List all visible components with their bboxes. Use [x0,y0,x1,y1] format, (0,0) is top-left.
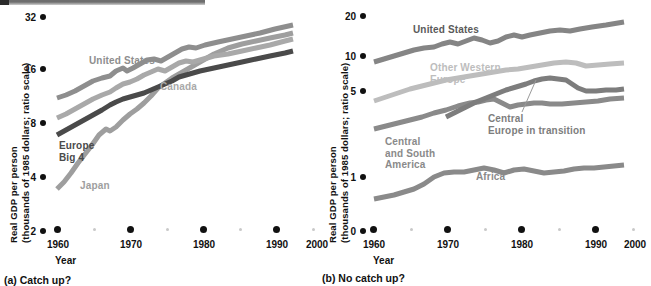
panel-a-x-axis-title: Year [55,255,76,266]
panel-b-xdot-minor-1995b [632,228,635,231]
panel-a-xdot-1960 [54,226,61,233]
panel-b-xdot-1980 [518,226,525,233]
panel-a-series-label-japan: Japan [80,180,110,192]
panel-a-caption: (a) Catch up? [4,274,71,286]
panel-a-xtick-1980: 1980 [184,239,224,250]
panel-a-xdot-minor-1985 [239,228,242,231]
panel-b-xtick-1960: 1960 [354,239,394,250]
panel-b-xdot-1960 [370,226,377,233]
panel-b-xtick-1970: 1970 [428,239,468,250]
panel-b-xtick-1980: 1980 [502,239,542,250]
panel-b-xtick-2000: 2000 [615,239,651,250]
panel-a-xtick-1960: 1960 [38,239,78,250]
panel-b-xdot-1990 [592,226,599,233]
panel-b-caption: (b) No catch up? [322,272,405,284]
panel-a-xdot-minor-1965 [93,228,96,231]
panel-b-xdot-1970 [444,226,451,233]
panel-a-xdot-1990 [273,226,280,233]
chart-panel-a: Real GDP per person (thousands of 1985 d… [0,0,318,282]
panel-a-xdot-minor-1995 [312,228,315,231]
panel-b-xdot-minor-1965 [410,228,413,231]
panel-a-series-label-united-states: United States [89,55,155,67]
panel-b-xdot-minor-1975 [484,228,487,231]
panel-a-series-label-europe-big4: Europe Big 4 [59,140,94,163]
panel-b-xtick-1990: 1990 [576,239,616,250]
panel-a-xdot-1980 [200,226,207,233]
panel-a-xdot-1970 [127,226,134,233]
panel-a-series-label-canada: Canada [160,81,197,93]
chart-panel-b: Real GDP per person (thousands of 1985 d… [318,0,637,282]
panel-a-xtick-1990: 1990 [257,239,297,250]
panel-a-xdot-minor-1975 [166,228,169,231]
panel-b-xdot-minor-1985 [558,228,561,231]
panel-b-x-axis-title: Year [373,255,394,266]
panel-a-xtick-1970: 1970 [111,239,151,250]
